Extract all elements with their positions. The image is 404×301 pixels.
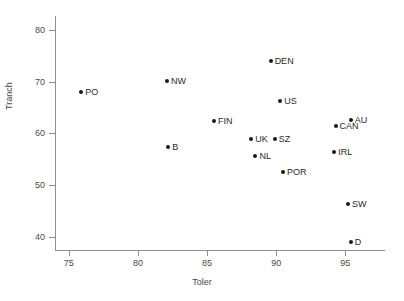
data-label-nl: NL (259, 152, 271, 161)
x-tick-85 (207, 250, 208, 256)
data-label-fin: FIN (218, 117, 233, 126)
y-tick-label-60: 60 (21, 128, 45, 138)
x-tick-label-75: 75 (54, 258, 84, 268)
data-point-sz (273, 137, 277, 141)
plot-area (55, 22, 366, 250)
x-tick-80 (138, 250, 139, 256)
data-point-irl (332, 150, 336, 154)
data-point-den (269, 59, 273, 63)
y-tick-label-50: 50 (21, 180, 45, 190)
x-axis-line (55, 250, 385, 251)
x-tick-75 (69, 250, 70, 256)
scatter-chart: 4050607080 7580859095 Tranch Toler PONWB… (0, 0, 404, 301)
data-label-po: PO (85, 88, 98, 97)
y-tick-label-70: 70 (21, 77, 45, 87)
data-label-d: D (355, 238, 362, 247)
x-tick-label-95: 95 (330, 258, 360, 268)
data-label-sw: SW (352, 200, 367, 209)
data-point-uk (249, 137, 253, 141)
x-tick-label-90: 90 (261, 258, 291, 268)
data-label-au: AU (355, 116, 368, 125)
x-tick-label-85: 85 (192, 258, 222, 268)
y-tick-label-80: 80 (21, 25, 45, 35)
data-label-den: DEN (275, 57, 294, 66)
data-point-can (334, 124, 338, 128)
y-tick-label-40: 40 (21, 232, 45, 242)
data-label-us: US (284, 97, 297, 106)
x-tick-label-80: 80 (123, 258, 153, 268)
data-label-por: POR (287, 168, 307, 177)
data-label-uk: UK (255, 135, 268, 144)
x-axis-title: Toler (0, 277, 404, 287)
data-point-nw (165, 79, 169, 83)
data-label-b: B (172, 143, 178, 152)
data-point-d (349, 240, 353, 244)
data-label-nw: NW (171, 77, 186, 86)
data-label-sz: SZ (279, 135, 291, 144)
x-tick-90 (276, 250, 277, 256)
x-tick-95 (345, 250, 346, 256)
data-label-irl: IRL (338, 148, 352, 157)
y-axis-title: Tranch (4, 82, 14, 110)
